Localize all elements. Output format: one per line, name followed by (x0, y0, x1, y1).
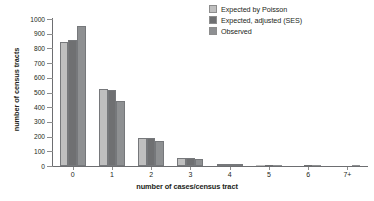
y-axis-tick-label: 1000 (19, 16, 45, 23)
x-axis-tick-label: 7+ (332, 170, 362, 179)
bar (256, 165, 265, 166)
legend-swatch-expected-by-poisson (209, 5, 217, 13)
x-axis-tick-label: 0 (58, 170, 88, 179)
x-axis-title: number of cases/census tract (0, 182, 374, 191)
bar (108, 90, 117, 166)
y-axis-tick-label: 400 (19, 104, 45, 111)
x-axis-tick-label: 1 (97, 170, 127, 179)
x-axis-line (52, 166, 368, 167)
y-axis-tick (47, 166, 53, 167)
bar (352, 165, 361, 166)
y-axis-tick-label: 500 (19, 89, 45, 96)
bar (273, 165, 282, 166)
bar (116, 101, 125, 166)
y-axis-tick-label: 200 (19, 133, 45, 140)
y-axis-tick-label: 800 (19, 45, 45, 52)
x-axis-tick-label: 6 (293, 170, 323, 179)
bar (138, 138, 147, 166)
bar (60, 42, 69, 166)
x-axis-tick-label: 2 (136, 170, 166, 179)
bar (99, 89, 108, 166)
y-axis-title: number of census tracts (12, 30, 21, 150)
y-axis-tick-label: 700 (19, 60, 45, 67)
x-axis-tick-label: 3 (175, 170, 205, 179)
legend-item-expected-by-poisson: Expected by Poisson (209, 4, 369, 14)
y-axis-tick-label: 900 (19, 30, 45, 37)
bar (147, 138, 156, 166)
bar (186, 158, 195, 166)
y-axis-tick-labels: 01002003004005006007008009001000 (17, 0, 45, 201)
bar (217, 164, 226, 166)
bar (225, 164, 234, 166)
y-axis-tick-label: 100 (19, 148, 45, 155)
bar (312, 165, 321, 166)
bar (177, 158, 186, 166)
x-axis-tick-label: 5 (254, 170, 284, 179)
bar (68, 40, 77, 166)
bar (195, 159, 204, 166)
y-axis-tick-label: 600 (19, 74, 45, 81)
bar (265, 165, 274, 166)
bar (304, 165, 313, 166)
y-axis-tick-label: 300 (19, 118, 45, 125)
plot-area (53, 19, 367, 166)
x-axis-tick-label: 4 (215, 170, 245, 179)
bar (155, 141, 164, 166)
bar-chart-figure: Expected by Poisson Expected, adjusted (… (0, 0, 374, 201)
bar (234, 164, 243, 166)
bar (77, 26, 86, 166)
y-axis-tick-label: 0 (19, 163, 45, 170)
legend-label-expected-by-poisson: Expected by Poisson (221, 5, 287, 14)
